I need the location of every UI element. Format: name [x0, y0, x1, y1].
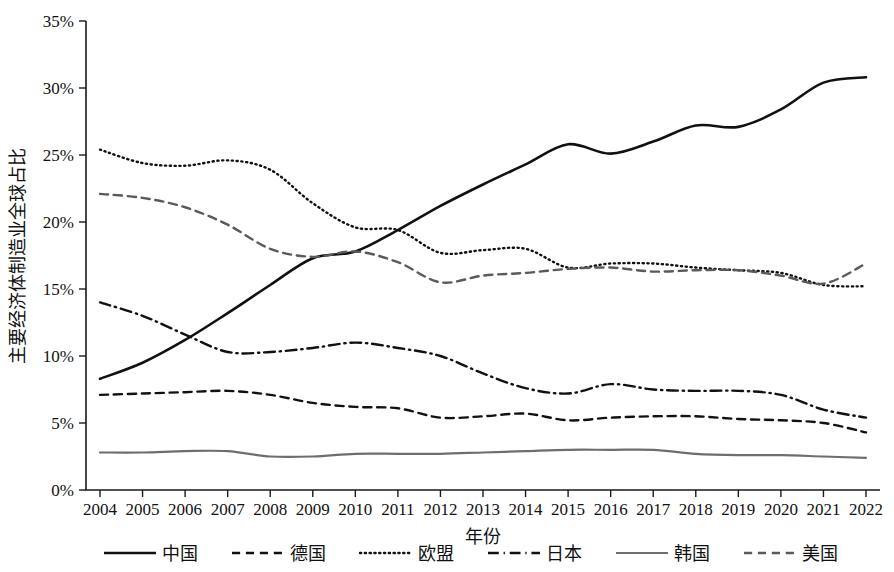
- x-axis-tick-label: 2005: [126, 500, 160, 519]
- x-axis-tick-label: 2008: [253, 500, 287, 519]
- legend-label-china: 中国: [162, 544, 198, 564]
- y-axis-tick-label: 35%: [43, 12, 74, 31]
- legend-label-germany: 德国: [290, 544, 326, 564]
- legend-label-eu: 欧盟: [418, 544, 454, 564]
- series-line-japan: [100, 302, 866, 417]
- x-axis-tick-label: 2021: [806, 500, 840, 519]
- axis-layer: [79, 21, 880, 497]
- y-axis-tick-label: 15%: [43, 280, 74, 299]
- x-axis-tick-label: 2019: [721, 500, 755, 519]
- line-chart-figure: 0%5%10%15%20%25%30%35%200420052006200720…: [0, 0, 894, 572]
- x-axis-tick-label: 2011: [381, 500, 414, 519]
- x-axis-tick-label: 2015: [551, 500, 585, 519]
- x-axis-tick-label: 2014: [509, 500, 544, 519]
- x-axis-tick-label: 2012: [423, 500, 457, 519]
- legend-label-korea: 韩国: [674, 544, 710, 564]
- legend-item-germany[interactable]: 德国: [232, 544, 326, 564]
- x-axis-tick-label: 2009: [296, 500, 330, 519]
- y-axis-title: 主要经济体制造业全球占比: [8, 148, 28, 364]
- x-axis-tick-label: 2017: [636, 500, 671, 519]
- y-axis-tick-label: 0%: [51, 481, 74, 500]
- y-axis-tick-label: 20%: [43, 213, 74, 232]
- legend-item-china[interactable]: 中国: [104, 544, 198, 564]
- series-layer: [100, 77, 866, 458]
- y-axis-tick-label: 10%: [43, 347, 74, 366]
- chart-container: 0%5%10%15%20%25%30%35%200420052006200720…: [0, 0, 894, 572]
- x-axis-tick-label: 2007: [211, 500, 246, 519]
- y-axis-tick-label: 30%: [43, 79, 74, 98]
- axis-lines: [86, 21, 880, 490]
- series-line-usa: [100, 194, 866, 284]
- legend-label-japan: 日本: [546, 544, 582, 564]
- label-layer: 0%5%10%15%20%25%30%35%200420052006200720…: [8, 12, 883, 547]
- series-line-germany: [100, 391, 866, 433]
- x-axis-tick-label: 2018: [679, 500, 713, 519]
- legend-item-usa[interactable]: 美国: [744, 544, 838, 564]
- legend-item-korea[interactable]: 韩国: [616, 544, 710, 564]
- x-axis-tick-label: 2013: [466, 500, 500, 519]
- legend-label-usa: 美国: [802, 544, 838, 564]
- x-axis-tick-label: 2022: [849, 500, 883, 519]
- legend-item-eu[interactable]: 欧盟: [360, 544, 454, 564]
- x-axis-tick-label: 2010: [338, 500, 372, 519]
- y-axis-tick-label: 5%: [51, 414, 74, 433]
- legend-layer: 中国德国欧盟日本韩国美国: [104, 544, 838, 564]
- x-axis-tick-label: 2016: [594, 500, 628, 519]
- x-axis-tick-label: 2004: [83, 500, 118, 519]
- x-axis-title: 年份: [465, 527, 501, 547]
- series-line-korea: [100, 450, 866, 458]
- legend-item-japan[interactable]: 日本: [488, 544, 582, 564]
- y-axis-tick-label: 25%: [43, 146, 74, 165]
- series-line-china: [100, 77, 866, 379]
- x-axis-tick-label: 2006: [168, 500, 202, 519]
- x-axis-tick-label: 2020: [764, 500, 798, 519]
